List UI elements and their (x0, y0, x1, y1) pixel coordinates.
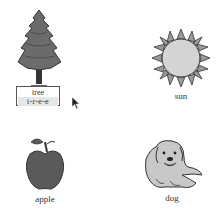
apple-icon[interactable] (25, 136, 65, 192)
mouse-cursor-icon (71, 96, 81, 110)
sun-icon[interactable] (152, 29, 210, 87)
tree-spelling: t-r-e-e (18, 97, 58, 106)
apple-label: apple (28, 194, 62, 204)
tree-icon[interactable] (15, 8, 65, 86)
tree-label: tree (32, 88, 44, 97)
dog-icon[interactable] (142, 139, 204, 191)
tree-label-box[interactable]: tree t-r-e-e (16, 86, 60, 106)
sun-label: sun (166, 91, 196, 101)
dog-label: dog (157, 193, 187, 203)
